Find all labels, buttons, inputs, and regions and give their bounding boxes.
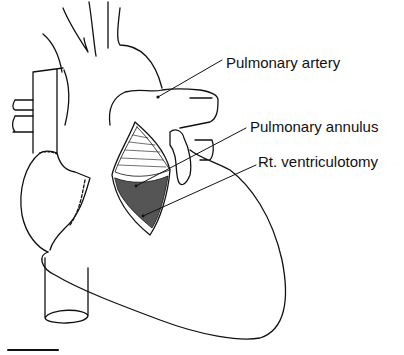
ventricle-cavity [115,176,168,228]
heart-diagram [0,0,404,355]
label-pulmonary-artery: Pulmonary artery [226,54,340,71]
inferior-vena-cava [45,258,88,323]
label-rt-ventriculotomy: Rt. ventriculotomy [258,153,378,170]
aortic-arch [43,2,162,125]
label-pulmonary-annulus: Pulmonary annulus [250,118,378,135]
superior-vena-cava [33,68,63,153]
leader-pulmonary-artery [158,60,222,97]
valve-leaflet [170,130,191,185]
heart-outline [42,89,286,339]
pulmonary-vein-stubs [13,100,33,132]
